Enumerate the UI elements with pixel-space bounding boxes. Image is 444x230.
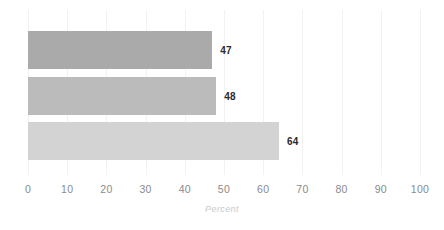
- x-tick-label: 30: [139, 183, 151, 195]
- x-tick-label: 50: [218, 183, 230, 195]
- x-tick-label: 0: [25, 183, 31, 195]
- x-tick-label: 100: [411, 183, 429, 195]
- bar-chart: 474864 0102030405060708090100 Percent: [0, 0, 444, 230]
- x-tick-label: 10: [61, 183, 73, 195]
- bar-row: 64: [28, 122, 420, 160]
- x-tick-label: 80: [335, 183, 347, 195]
- bar-value-label: 64: [287, 136, 299, 147]
- bar: [28, 31, 212, 69]
- x-tick-label: 70: [296, 183, 308, 195]
- x-tick-label: 40: [179, 183, 191, 195]
- gridline: [420, 10, 421, 175]
- x-tick-label: 60: [257, 183, 269, 195]
- bar: [28, 122, 279, 160]
- bar: [28, 77, 216, 115]
- bar-value-label: 47: [220, 45, 232, 56]
- bar-value-label: 48: [224, 91, 236, 102]
- x-axis: 0102030405060708090100: [28, 183, 420, 199]
- bar-row: 47: [28, 31, 420, 69]
- plot-area: 474864: [28, 10, 420, 175]
- x-tick-label: 90: [375, 183, 387, 195]
- x-tick-label: 20: [100, 183, 112, 195]
- x-axis-title: Percent: [0, 204, 444, 214]
- bar-row: 48: [28, 77, 420, 115]
